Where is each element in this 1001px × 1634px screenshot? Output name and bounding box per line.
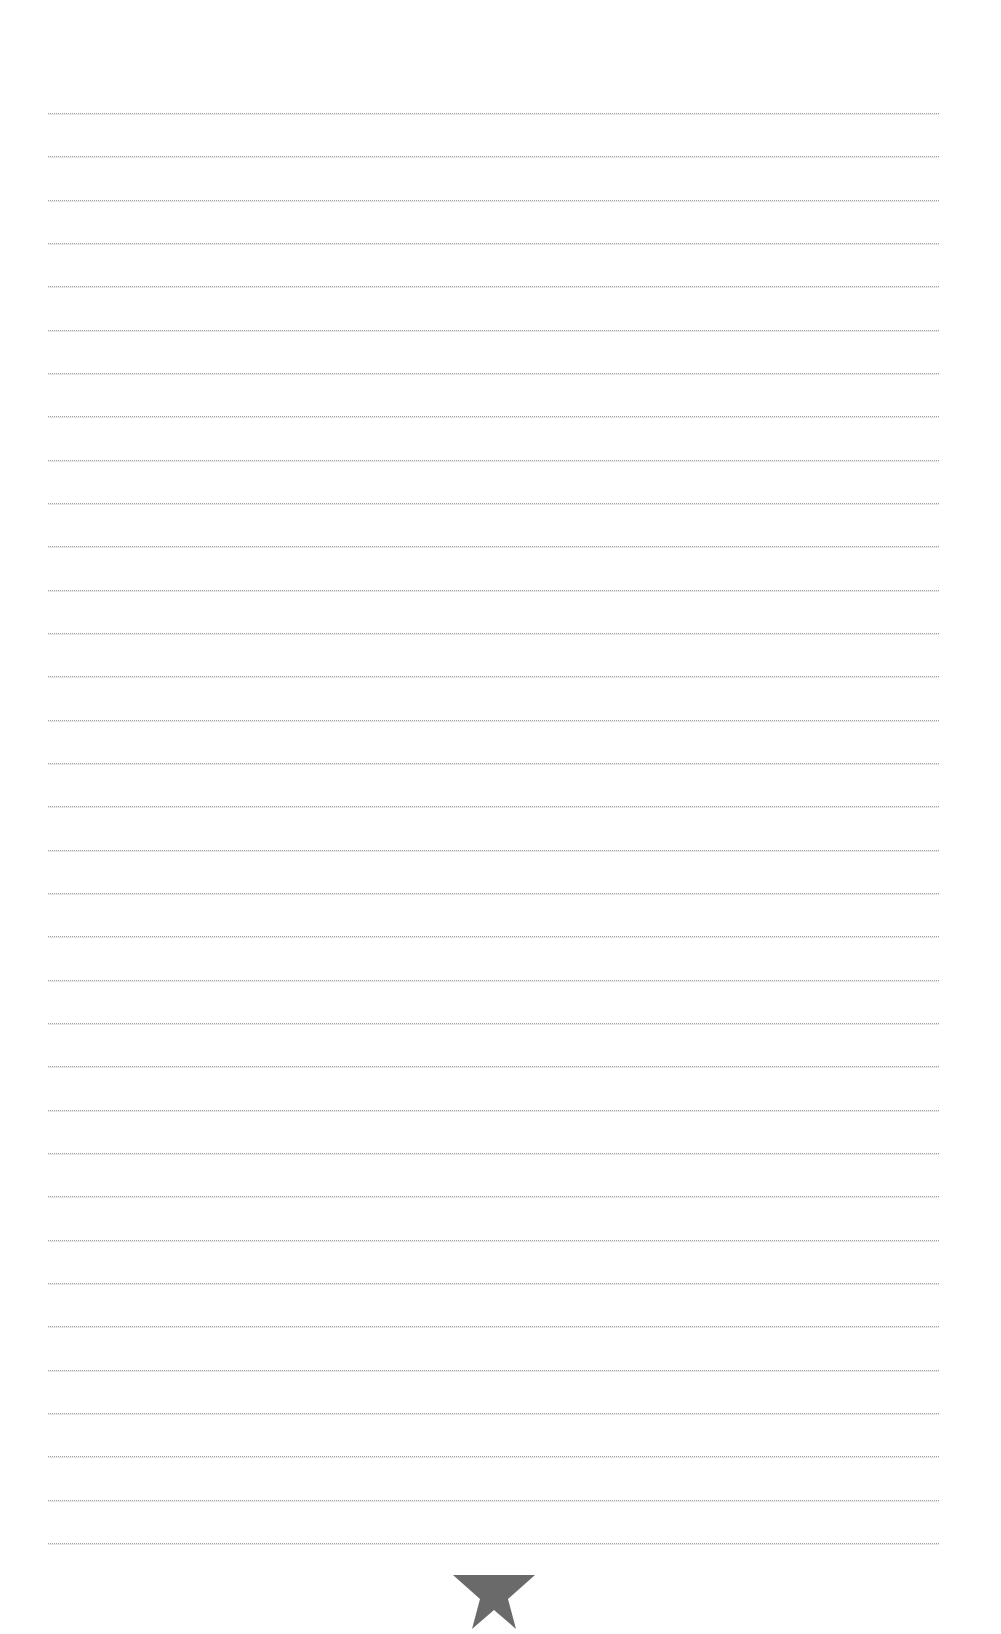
ruled-line [48,676,939,677]
ruled-line [48,1456,939,1457]
ruled-line [48,1023,939,1024]
ruled-line [48,1543,939,1544]
ruled-line [48,373,939,374]
ruled-line [48,893,939,894]
ruled-line [48,156,939,157]
lined-paper-page [0,0,1001,1634]
ruled-line [48,1283,939,1284]
ruled-line [48,416,939,417]
ruled-line [48,460,939,461]
ruled-line [48,113,939,114]
ruled-line [48,763,939,764]
ruled-line [48,1153,939,1154]
ruled-line [48,1196,939,1197]
ruled-line [48,1110,939,1111]
ruled-line [48,200,939,201]
ruled-line [48,936,939,937]
ruled-line [48,1500,939,1501]
ruled-line [48,720,939,721]
ruled-line [48,503,939,504]
ruled-line [48,286,939,287]
ruled-line [48,980,939,981]
ruled-line [48,1413,939,1414]
ruled-line [48,633,939,634]
ruled-line [48,1326,939,1327]
ruled-line [48,850,939,851]
ruled-line [48,546,939,547]
ruled-line [48,590,939,591]
ruled-line [48,1370,939,1371]
ruled-line [48,806,939,807]
ruled-line [48,243,939,244]
ruled-line [48,1240,939,1241]
ruled-line [48,1066,939,1067]
ruled-line [48,330,939,331]
star-icon [450,1572,538,1632]
